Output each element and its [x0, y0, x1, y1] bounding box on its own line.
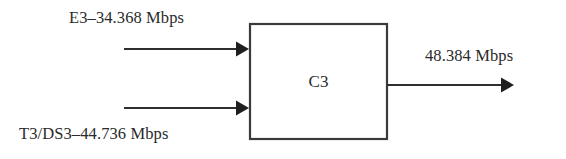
node-label-c3: C3: [249, 73, 388, 90]
output-label-rate: 48.384 Mbps: [425, 48, 513, 65]
input-label-t3ds3: T3/DS3–44.736 Mbps: [19, 126, 168, 143]
diagram-canvas: E3–34.368 Mbps T3/DS3–44.736 Mbps 48.384…: [0, 0, 566, 159]
input-label-e3: E3–34.368 Mbps: [69, 10, 184, 27]
